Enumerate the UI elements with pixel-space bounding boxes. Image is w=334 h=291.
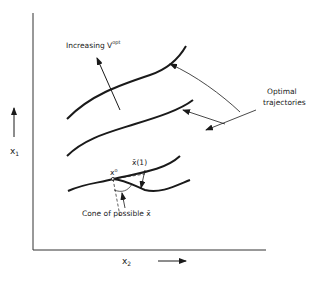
increasing-label: Increasing Vopt [66,39,120,50]
xbar1-label: x̄(1) [132,158,147,167]
trajectory-bottom [68,156,180,191]
cone-arc [114,184,132,191]
trajectory-diagram: x1 x2 Increasing Vopt Optimal trajectori… [0,0,334,291]
pointer-middle [183,110,225,124]
cone-pointer [122,193,125,208]
trajectory-branch [113,179,190,191]
y-axis-label: x1 [10,146,19,157]
x-axis-label: x2 [122,256,131,267]
cone-label: Cone of possible x̄ [82,209,151,218]
increasing-arrow-icon [97,58,120,110]
trajectory-middle [67,100,193,156]
optimal-label-line2: trajectories [263,98,306,107]
optimal-label-line1: Optimal [267,87,297,96]
x0-label: xo [110,167,118,177]
trajectory-top [67,46,186,119]
pointer-top [170,64,240,112]
